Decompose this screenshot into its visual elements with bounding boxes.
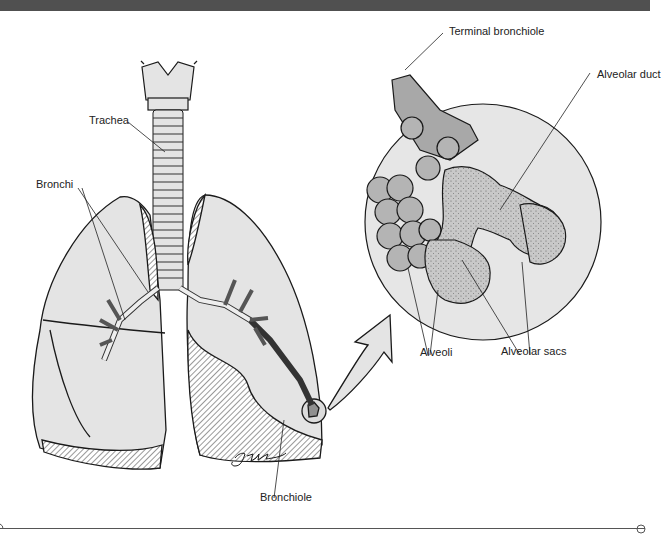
alveoli-magnified-view — [365, 75, 601, 340]
bottom-rule — [0, 528, 645, 529]
enlargement-arrow — [328, 315, 392, 410]
right-lung — [33, 197, 167, 470]
larynx — [141, 61, 197, 110]
rule-end-cap — [637, 525, 645, 533]
label-alveolar-sacs: Alveolar sacs — [501, 345, 566, 357]
label-trachea: Trachea — [89, 114, 129, 126]
label-bronchiole: Bronchiole — [260, 491, 312, 503]
label-alveolar-duct: Alveolar duct — [597, 68, 661, 80]
trachea — [153, 110, 183, 290]
label-alveoli: Alveoli — [420, 346, 452, 358]
label-terminal-bronchiole: Terminal bronchiole — [449, 25, 544, 37]
label-bronchi: Bronchi — [36, 178, 73, 190]
